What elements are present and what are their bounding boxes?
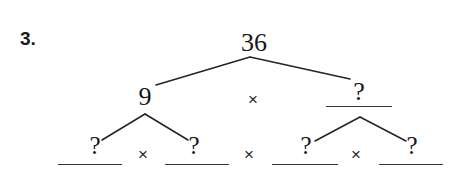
factor-tree-worksheet-problem: 3. 36 9 × ? ? × ? × ? × ? [0,0,461,184]
branch-left-to-blank1 [102,114,145,140]
answer-blank-rule-level1-right[interactable] [326,106,392,107]
tree-root-value: 36 [241,30,267,56]
answer-blank-rule-3[interactable] [272,164,338,165]
branch-left-to-blank2 [145,114,188,140]
answer-blank-rule-1[interactable] [58,164,122,165]
tree-leaf-blank-4[interactable]: ? [406,133,417,158]
factor-tree-branch-lines [0,0,461,184]
tree-leaf-blank-2[interactable]: ? [188,133,199,158]
tree-node-left-factor-9: 9 [139,84,152,110]
problem-number-label: 3. [20,29,36,48]
branch-root-to-left [156,57,250,85]
branch-right-to-blank3 [315,117,360,141]
branch-right-to-blank4 [360,117,406,141]
times-sign-leaf-2: × [244,146,254,163]
answer-blank-rule-2[interactable] [165,164,229,165]
tree-node-right-factor-blank[interactable]: ? [353,79,365,105]
times-sign-level1: × [248,91,258,108]
times-sign-leaf-1: × [138,146,148,163]
branch-root-to-right [250,57,350,79]
tree-leaf-blank-3[interactable]: ? [300,133,311,158]
times-sign-leaf-3: × [351,146,361,163]
tree-leaf-blank-1[interactable]: ? [89,133,100,158]
answer-blank-rule-4[interactable] [379,164,443,165]
